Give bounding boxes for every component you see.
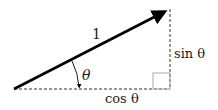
- angle-arc: [72, 61, 79, 87]
- sin-label: sin θ: [174, 46, 205, 61]
- cos-label: cos θ: [105, 91, 139, 106]
- angle-label: θ: [82, 67, 91, 83]
- right-angle-marker: [153, 73, 170, 89]
- angle-arc-arrowhead-icon: [77, 84, 81, 89]
- hypotenuse-label: 1: [92, 26, 101, 42]
- unit-vector-diagram: 1 θ sin θ cos θ: [0, 0, 218, 110]
